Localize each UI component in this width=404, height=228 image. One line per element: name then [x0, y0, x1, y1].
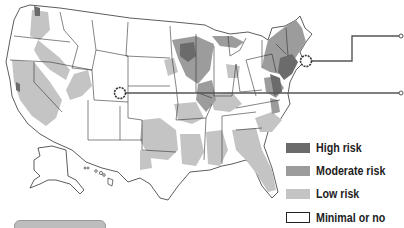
legend-label-high: High risk [316, 140, 362, 155]
leader-end-colorado [399, 91, 403, 95]
leader-end-northeast [399, 34, 403, 38]
legend-swatch-moderate [286, 166, 310, 176]
legend-label-moderate: Moderate risk [316, 163, 385, 178]
legend-label-low: Low risk [316, 186, 359, 201]
legend-swatch-minimal [286, 212, 310, 223]
legend-label-minimal: Minimal or no risk [316, 209, 388, 228]
northeast-marker-icon[interactable] [301, 56, 312, 67]
legend-swatch-high [286, 143, 310, 153]
bottom-tab [14, 220, 106, 228]
legend: High risk Moderate risk Low risk Minimal… [286, 140, 404, 228]
leader-line-northeast [306, 36, 400, 61]
legend-item-moderate: Moderate risk [286, 163, 404, 183]
legend-swatch-low [286, 189, 310, 199]
legend-item-minimal: Minimal or no risk [286, 209, 404, 228]
legend-item-low: Low risk [286, 186, 404, 206]
legend-item-high: High risk [286, 140, 404, 160]
colorado-marker-icon[interactable] [115, 88, 126, 99]
